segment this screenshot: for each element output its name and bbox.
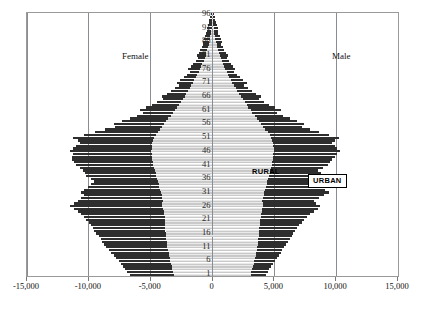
bar-male-urban bbox=[213, 21, 216, 23]
bar-male-urban bbox=[260, 221, 302, 223]
bar-female-urban bbox=[91, 183, 158, 185]
bar-male-rural bbox=[213, 230, 260, 232]
bar-male-rural bbox=[213, 208, 263, 210]
bar-male-rural bbox=[213, 104, 247, 106]
bar-female-urban bbox=[162, 95, 185, 97]
bar-male-rural bbox=[213, 197, 263, 199]
bar-male-rural bbox=[213, 189, 266, 191]
bar-male-urban bbox=[219, 52, 226, 54]
bar-female-rural bbox=[166, 238, 212, 240]
bar-male-urban bbox=[257, 249, 283, 251]
y-tick-76: 76 bbox=[189, 64, 211, 73]
bar-female-urban bbox=[72, 158, 153, 160]
bar-male-rural bbox=[213, 120, 260, 122]
bar-female-urban bbox=[163, 98, 183, 100]
y-tick-36: 36 bbox=[189, 173, 211, 182]
bar-male-urban bbox=[274, 147, 338, 149]
bar-male-urban bbox=[261, 213, 310, 215]
bar-male-urban bbox=[273, 145, 335, 147]
y-tick-11: 11 bbox=[189, 242, 211, 251]
y-tick-91: 91 bbox=[189, 23, 211, 32]
bar-female-urban bbox=[152, 104, 179, 106]
gridline-15000 bbox=[398, 13, 399, 276]
bar-female-urban bbox=[73, 147, 151, 149]
bar-male-urban bbox=[215, 35, 220, 37]
bar-male-urban bbox=[252, 268, 269, 270]
bar-female-urban bbox=[171, 90, 188, 92]
bar-female-urban bbox=[76, 145, 151, 147]
bar-male-urban bbox=[243, 98, 260, 100]
bar-female-urban bbox=[140, 109, 175, 111]
bar-male-rural bbox=[213, 54, 220, 56]
x-tick--10000: -10,000 bbox=[75, 282, 101, 291]
x-tick-15000: 15,000 bbox=[385, 282, 408, 291]
bar-female-urban bbox=[130, 274, 174, 276]
bar-male-rural bbox=[213, 65, 225, 67]
bar-male-urban bbox=[259, 235, 292, 237]
bar-male-rural bbox=[213, 232, 259, 234]
bar-male-rural bbox=[213, 63, 223, 65]
bar-male-rural bbox=[213, 210, 262, 212]
x-tick-0: 0 bbox=[209, 282, 213, 291]
bar-male-urban bbox=[264, 194, 324, 196]
bar-female-urban bbox=[115, 126, 162, 128]
bar-male-rural bbox=[213, 60, 222, 62]
bar-male-rural bbox=[213, 200, 263, 202]
bar-male-urban bbox=[273, 153, 337, 155]
bar-male-rural bbox=[213, 224, 260, 226]
bar-female-urban bbox=[101, 238, 167, 240]
bar-male-rural bbox=[213, 271, 252, 273]
bar-male-rural bbox=[213, 106, 249, 108]
y-tick-1: 1 bbox=[189, 269, 211, 278]
bar-female-urban bbox=[130, 117, 169, 119]
bar-female-urban bbox=[89, 221, 165, 223]
y-tick-81: 81 bbox=[189, 50, 211, 59]
y-tick-61: 61 bbox=[189, 105, 211, 114]
gridline--15000 bbox=[27, 13, 28, 276]
series-label-urban: URBAN bbox=[308, 174, 347, 188]
y-tick-31: 31 bbox=[189, 187, 211, 196]
bar-male-urban bbox=[218, 49, 224, 51]
bar-male-urban bbox=[265, 128, 310, 130]
bar-male-urban bbox=[214, 32, 218, 34]
bar-female-urban bbox=[76, 164, 153, 166]
bar-female-urban bbox=[73, 153, 152, 155]
bar-male-rural bbox=[213, 268, 253, 270]
bar-female-urban bbox=[86, 219, 164, 221]
bar-male-urban bbox=[214, 27, 218, 29]
bar-female-urban bbox=[84, 189, 160, 191]
bar-male-urban bbox=[261, 216, 307, 218]
y-tick-66: 66 bbox=[189, 91, 211, 100]
bar-male-urban bbox=[222, 60, 229, 62]
bar-female-urban bbox=[93, 227, 166, 229]
y-tick-51: 51 bbox=[189, 132, 211, 141]
x-tick-10000: 10,000 bbox=[323, 282, 346, 291]
y-tick-71: 71 bbox=[189, 77, 211, 86]
bar-male-urban bbox=[237, 90, 251, 92]
bar-male-urban bbox=[245, 101, 265, 103]
bar-female-urban bbox=[105, 128, 160, 130]
bar-male-rural bbox=[213, 219, 261, 221]
bar-male-urban bbox=[213, 19, 216, 21]
bar-male-urban bbox=[258, 243, 287, 245]
bar-female-urban bbox=[78, 200, 163, 202]
bar-male-urban bbox=[264, 191, 328, 193]
bar-male-rural bbox=[213, 142, 273, 144]
bar-male-urban bbox=[259, 120, 296, 122]
bar-male-rural bbox=[213, 82, 233, 84]
bar-male-rural bbox=[213, 213, 262, 215]
bar-male-urban bbox=[251, 274, 266, 276]
bar-male-rural bbox=[213, 249, 257, 251]
bar-male-rural bbox=[213, 241, 258, 243]
bar-male-urban bbox=[232, 82, 246, 84]
bar-male-urban bbox=[214, 30, 218, 32]
bar-male-urban bbox=[263, 202, 317, 204]
bar-male-urban bbox=[223, 63, 231, 65]
bar-female-urban bbox=[84, 134, 156, 136]
bar-female-urban bbox=[127, 271, 173, 273]
bar-male-urban bbox=[254, 263, 274, 265]
bar-male-rural bbox=[213, 131, 268, 133]
bar-female-urban bbox=[104, 243, 167, 245]
bar-female-urban bbox=[123, 265, 171, 267]
bar-female-urban bbox=[94, 180, 157, 182]
